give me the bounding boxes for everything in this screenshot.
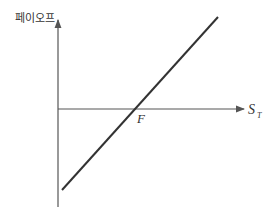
intercept-label-f: F [136, 111, 146, 126]
payoff-diagram: 페이오프 S T F [0, 0, 272, 222]
payoff-line [62, 17, 218, 190]
x-axis-label: S [248, 102, 255, 117]
y-axis-label: 페이오프 [15, 12, 55, 25]
x-axis-label-subscript: T [257, 111, 262, 120]
